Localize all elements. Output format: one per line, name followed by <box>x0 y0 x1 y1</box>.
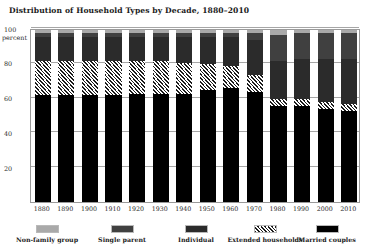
bar-segment-married-couples[interactable] <box>153 94 169 202</box>
bar-segment-extended-households[interactable] <box>200 64 216 90</box>
chart-figure: Distribution of Household Types by Decad… <box>0 0 367 252</box>
bar-segment-extended-households[interactable] <box>82 61 98 95</box>
bar-segment-extended-households[interactable] <box>341 104 357 111</box>
bar-segment-single-parent[interactable] <box>318 33 334 59</box>
y-axis-tick-label: 80 <box>4 60 28 68</box>
bar-segment-individual[interactable] <box>153 37 169 61</box>
legend-swatch-individual <box>185 225 208 233</box>
bar-segment-married-couples[interactable] <box>176 94 192 202</box>
bar-segment-extended-households[interactable] <box>223 66 239 88</box>
bar-segment-single-parent[interactable] <box>247 33 263 40</box>
bar-segment-individual[interactable] <box>294 59 310 99</box>
bar-segment-married-couples[interactable] <box>223 88 239 202</box>
x-axis-tick-label: 1960 <box>219 205 241 212</box>
bar-segment-individual[interactable] <box>176 37 192 63</box>
x-axis-tick-label: 1930 <box>149 205 171 212</box>
bar-segment-married-couples[interactable] <box>247 92 263 202</box>
gridline-100 <box>31 27 359 28</box>
legend-swatch-non-family-group <box>36 225 59 233</box>
bar-2000[interactable] <box>318 30 334 202</box>
bar-segment-individual[interactable] <box>105 37 121 61</box>
x-axis-tick-label: 1980 <box>267 205 289 212</box>
x-axis-tick-label: 1920 <box>125 205 147 212</box>
x-axis-tick-label: 1990 <box>290 205 312 212</box>
bar-segment-married-couples[interactable] <box>58 95 74 202</box>
x-axis-tick-label: 1880 <box>31 205 53 212</box>
x-axis-tick-label: 2000 <box>314 205 336 212</box>
bar-segment-individual[interactable] <box>247 40 263 74</box>
bar-segment-extended-households[interactable] <box>35 61 51 95</box>
bar-2010[interactable] <box>341 30 357 202</box>
legend-item-married-couples[interactable]: Married couples <box>282 225 367 243</box>
x-axis-tick-label: 2010 <box>337 205 359 212</box>
x-axis-tick-label: 1940 <box>172 205 194 212</box>
y-axis-tick-label: 60 <box>4 95 28 103</box>
bar-segment-single-parent[interactable] <box>294 33 310 59</box>
bar-segment-extended-households[interactable] <box>247 75 263 92</box>
x-axis-tick-label: 1970 <box>243 205 265 212</box>
bar-1940[interactable] <box>176 30 192 202</box>
bar-segment-individual[interactable] <box>35 37 51 61</box>
bar-segment-extended-households[interactable] <box>318 102 334 109</box>
bar-1950[interactable] <box>200 30 216 202</box>
x-axis-tick-label: 1910 <box>102 205 124 212</box>
legend-swatch-extended-households <box>254 225 277 233</box>
bar-segment-individual[interactable] <box>58 37 74 61</box>
bar-segment-individual[interactable] <box>129 37 145 61</box>
y-axis-tick-label: 40 <box>4 130 28 138</box>
bar-segment-married-couples[interactable] <box>294 106 310 202</box>
plot-frame <box>30 29 360 203</box>
bar-1990[interactable] <box>294 30 310 202</box>
bar-segment-extended-households[interactable] <box>129 61 145 94</box>
bar-segment-extended-households[interactable] <box>58 61 74 95</box>
bar-1970[interactable] <box>247 30 263 202</box>
x-axis-tick-label: 1900 <box>78 205 100 212</box>
bar-1930[interactable] <box>153 30 169 202</box>
bar-segment-married-couples[interactable] <box>129 94 145 202</box>
bar-1900[interactable] <box>82 30 98 202</box>
bar-segment-extended-households[interactable] <box>270 99 286 106</box>
legend-swatch-married-couples <box>316 225 339 233</box>
bar-segment-married-couples[interactable] <box>35 95 51 202</box>
legend-swatch-single-parent <box>111 225 134 233</box>
y-axis-tick-label: 100 <box>4 26 28 34</box>
y-axis-tick-label: 20 <box>4 165 28 173</box>
bar-segment-extended-households[interactable] <box>153 61 169 94</box>
bar-segment-individual[interactable] <box>341 59 357 104</box>
y-axis-unit-label: percent <box>2 34 32 42</box>
bar-1960[interactable] <box>223 30 239 202</box>
legend-label-married-couples: Married couples <box>282 236 367 243</box>
bar-1890[interactable] <box>58 30 74 202</box>
bar-segment-married-couples[interactable] <box>82 95 98 202</box>
bar-1880[interactable] <box>35 30 51 202</box>
bar-segment-extended-households[interactable] <box>176 63 192 94</box>
bar-segment-extended-households[interactable] <box>294 99 310 106</box>
bar-segment-married-couples[interactable] <box>341 111 357 202</box>
plot-area <box>31 30 359 202</box>
bar-segment-extended-households[interactable] <box>105 61 121 95</box>
bar-segment-individual[interactable] <box>270 61 286 99</box>
bar-1910[interactable] <box>105 30 121 202</box>
bar-segment-single-parent[interactable] <box>270 35 286 61</box>
x-axis-tick-label: 1950 <box>196 205 218 212</box>
bar-segment-individual[interactable] <box>223 37 239 66</box>
bar-segment-married-couples[interactable] <box>200 90 216 202</box>
bar-segment-individual[interactable] <box>318 59 334 102</box>
chart-legend: Non-family groupSingle parentIndividualE… <box>0 222 367 252</box>
page-title: Distribution of Household Types by Decad… <box>9 6 249 15</box>
bar-segment-married-couples[interactable] <box>270 106 286 202</box>
bar-segment-individual[interactable] <box>200 37 216 65</box>
bar-segment-married-couples[interactable] <box>318 109 334 202</box>
bar-segment-single-parent[interactable] <box>341 33 357 59</box>
bar-segment-individual[interactable] <box>82 37 98 61</box>
x-axis-tick-label: 1890 <box>54 205 76 212</box>
bar-segment-married-couples[interactable] <box>105 95 121 202</box>
bar-1920[interactable] <box>129 30 145 202</box>
bar-1980[interactable] <box>270 30 286 202</box>
